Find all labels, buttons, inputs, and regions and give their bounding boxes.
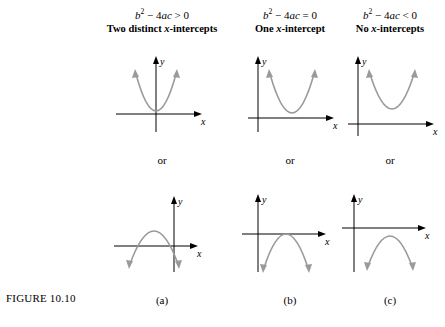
figure-column-a: b2 − 4ac > 0 Two distinct x-intercepts x… (98, 0, 226, 327)
curve-arrow-left (126, 260, 133, 269)
y-axis-label: y (357, 194, 363, 205)
curve-arrow-right (409, 262, 416, 271)
curve-arrow-right (175, 260, 182, 269)
curve-arrow-left (366, 69, 373, 78)
y-axis-arrow (153, 56, 159, 64)
y-axis-arrow (255, 56, 261, 64)
curve-arrow-left (132, 69, 139, 78)
parabola-curve (264, 234, 308, 268)
parabola-curve (370, 74, 414, 109)
column-c-caption: (c) (326, 294, 445, 306)
column-c-discriminant: b2 − 4ac < 0 (326, 8, 445, 22)
curve-arrow-left (364, 262, 371, 271)
curve-arrow-right (305, 264, 312, 273)
curve-arrow-left (266, 69, 273, 78)
parabola-curve (270, 74, 314, 113)
y-axis-arrow (255, 194, 261, 202)
column-c-top-graph: x y (334, 52, 445, 140)
y-axis-arrow (355, 56, 361, 64)
figure-column-c: b2 − 4ac < 0 No x-intercepts x y or (326, 0, 445, 327)
column-a-discriminant: b2 − 4ac > 0 (98, 8, 226, 22)
x-axis-label: x (196, 248, 202, 259)
column-a-or-label: or (98, 154, 226, 166)
figure-label: FIGURE 10.10 (6, 292, 76, 304)
y-axis-label: y (261, 56, 267, 67)
column-a-description: Two distinct x-intercepts (98, 22, 226, 36)
column-c-or-label: or (326, 154, 445, 166)
curve-arrow-left (260, 264, 267, 273)
curve-arrow-right (173, 69, 180, 78)
x-axis-label: x (432, 126, 438, 137)
y-axis-label: y (261, 194, 267, 205)
y-axis-label: y (177, 196, 183, 207)
column-a-caption: (a) (98, 294, 226, 306)
x-axis-label: x (424, 230, 430, 241)
curve-arrow-right (411, 69, 418, 78)
parabola-curve (130, 231, 178, 264)
column-a-top-graph: x y (106, 52, 218, 140)
column-a-bottom-graph: x y (106, 192, 218, 280)
column-a-heading: b2 − 4ac > 0 Two distinct x-intercepts (98, 8, 226, 36)
y-axis-arrow (171, 196, 177, 204)
column-c-bottom-graph: x y (334, 192, 445, 280)
figure-container: FIGURE 10.10 b2 − 4ac > 0 Two distinct x… (0, 0, 445, 327)
x-axis-label: x (200, 116, 206, 127)
column-c-description: No x-intercepts (326, 22, 445, 36)
curve-arrow-right (311, 69, 318, 78)
column-c-heading: b2 − 4ac < 0 No x-intercepts (326, 8, 445, 36)
y-axis-label: y (361, 56, 367, 67)
y-axis-label: y (159, 56, 165, 67)
y-axis-arrow (351, 194, 357, 202)
parabola-curve (368, 236, 412, 266)
